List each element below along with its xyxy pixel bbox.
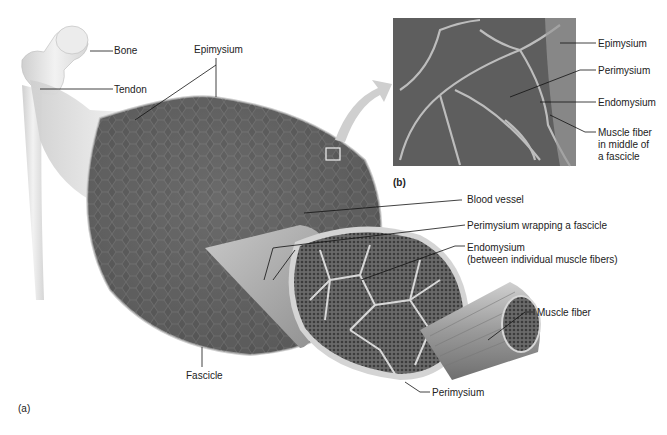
label-muscle-fiber-b-line3: a fascicle [598, 151, 640, 162]
panel-label-b: (b) [393, 177, 406, 188]
label-perimysium-wrapping: Perimysium wrapping a fascicle [467, 220, 607, 231]
label-muscle-fiber-b-line1: Muscle fiber [598, 127, 652, 138]
label-muscle-fiber: Muscle fiber [537, 307, 591, 318]
label-endomysium-b: Endomysium [598, 97, 656, 108]
label-epimysium-b: Epimysium [598, 38, 647, 49]
label-epimysium-a: Epimysium [194, 44, 243, 55]
label-endomysium-a: Endomysium [467, 242, 525, 253]
label-fascicle: Fascicle [186, 370, 223, 381]
panel-label-a: (a) [18, 403, 30, 414]
label-perimysium-b: Perimysium [598, 65, 650, 76]
label-bone: Bone [114, 45, 137, 56]
label-tendon: Tendon [114, 84, 147, 95]
label-muscle-fiber-b-line2: in middle of [598, 139, 649, 150]
label-blood-vessel: Blood vessel [467, 194, 524, 205]
micrograph [393, 18, 576, 166]
label-perimysium-a: Perimysium [432, 387, 484, 398]
anatomy-illustration [0, 0, 667, 435]
muscle-structure-figure: Bone Tendon Epimysium Blood vessel Perim… [0, 0, 667, 435]
label-endomysium-note: (between individual muscle fibers) [467, 254, 618, 265]
